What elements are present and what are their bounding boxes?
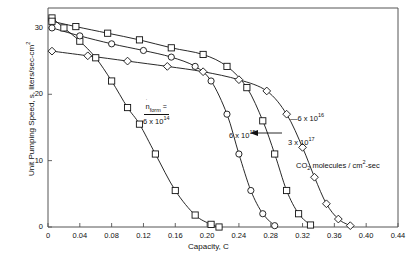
- y-tick-label: 0: [28, 223, 43, 231]
- data-point-circle: [260, 211, 266, 217]
- data-point-diamond: [311, 173, 319, 181]
- data-point-diamond: [235, 76, 243, 84]
- data-point-square: [172, 187, 178, 193]
- x-axis-label: Capacity, C: [188, 243, 229, 251]
- data-point-diamond: [84, 52, 92, 60]
- data-point-square: [272, 151, 278, 157]
- data-point-square: [136, 121, 142, 127]
- x-tick-label: 0.12: [134, 232, 152, 240]
- x-tick-label: 0.40: [357, 232, 375, 240]
- data-point-square: [307, 222, 313, 228]
- data-point-diamond: [346, 222, 354, 230]
- x-tick-label: 0.20: [198, 232, 216, 240]
- y-tick-label: 20: [28, 90, 43, 98]
- y-tick-label: 10: [28, 157, 43, 165]
- series-label-6e15: 6 x 1015: [229, 130, 256, 139]
- data-point-circle: [272, 223, 278, 229]
- x-tick-label: 0.36: [325, 232, 343, 240]
- data-point-diamond: [163, 63, 171, 71]
- x-tick-label: 0.44: [389, 232, 407, 240]
- data-point-square: [284, 187, 290, 193]
- data-point-square: [61, 25, 67, 31]
- data-point-diamond: [323, 200, 331, 208]
- x-tick-label: 0.04: [71, 232, 89, 240]
- chart-canvas: [0, 0, 409, 261]
- x-tick-label: 0.24: [230, 232, 248, 240]
- data-point-square: [260, 118, 266, 124]
- data-point-square: [93, 55, 99, 61]
- x-tick-label: 0.28: [262, 232, 280, 240]
- data-point-square: [124, 104, 130, 110]
- data-point-circle: [236, 151, 242, 157]
- data-point-square: [152, 151, 158, 157]
- series-label-3e17: 3 x 1017: [288, 137, 315, 146]
- x-tick-label: 0: [39, 232, 57, 240]
- nform-numerator: ̇ nform =: [144, 103, 169, 115]
- data-point-circle: [248, 187, 254, 193]
- y-tick-label: 30: [28, 24, 43, 32]
- data-point-diamond: [48, 47, 56, 55]
- data-point-square: [105, 30, 111, 36]
- series-line-0: [52, 18, 219, 227]
- x-tick-label: 0.32: [294, 232, 312, 240]
- data-point-square: [216, 224, 222, 230]
- data-point-circle: [224, 111, 230, 117]
- data-point-square: [136, 37, 142, 43]
- data-point-square: [49, 18, 55, 24]
- units-note: CO2 molecules / cm2-sec: [296, 160, 380, 172]
- data-point-circle: [49, 25, 55, 31]
- data-point-square: [192, 212, 198, 218]
- figure-container: Unit Pumping Speed, s, liters/sec-cm2 Ca…: [0, 0, 409, 261]
- data-point-circle: [77, 33, 83, 39]
- x-tick-label: 0.08: [103, 232, 121, 240]
- data-point-circle: [140, 47, 146, 53]
- data-point-square: [244, 85, 250, 91]
- y-axis-label: Unit Pumping Speed, s, liters/sec-cm2: [26, 29, 36, 189]
- data-curves: [52, 18, 350, 227]
- data-point-square: [109, 78, 115, 84]
- data-point-circle: [168, 54, 174, 60]
- data-point-square: [168, 45, 174, 51]
- data-point-square: [73, 23, 79, 29]
- series-label-6e16: —6 x 1016: [290, 113, 324, 122]
- nform-annotation: ̇ nform = 6 x 1014: [143, 103, 170, 125]
- x-tick-label: 0.16: [166, 232, 184, 240]
- data-point-square: [208, 221, 214, 227]
- data-point-square: [200, 51, 206, 57]
- data-point-diamond: [124, 57, 132, 65]
- data-point-square: [224, 63, 230, 69]
- nform-denominator: 6 x 1014: [143, 115, 170, 125]
- data-point-circle: [192, 63, 198, 69]
- data-point-circle: [208, 78, 214, 84]
- data-point-circle: [109, 41, 115, 47]
- data-point-square: [295, 211, 301, 217]
